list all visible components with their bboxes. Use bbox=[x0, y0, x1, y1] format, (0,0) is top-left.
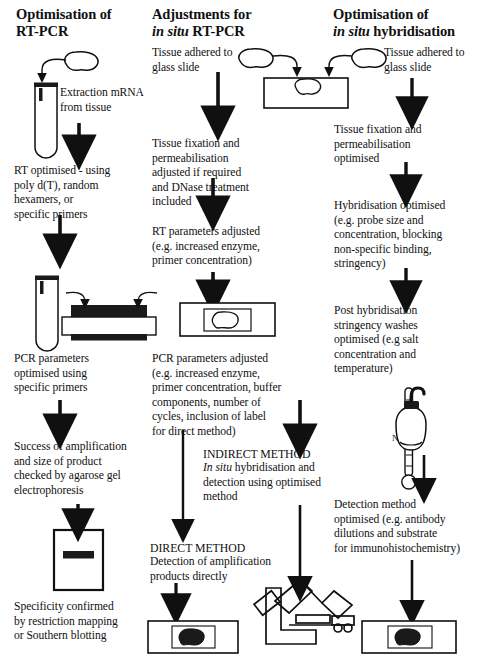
column-heading-in-situ-hybridisation: Optimisation of in situ hybridisation bbox=[333, 6, 455, 40]
arrow-blob-mid-to-slide bbox=[273, 55, 297, 72]
step-pcr-parameters-adjusted-mid: PCR parameters adjusted (e.g. increased … bbox=[152, 352, 317, 440]
heading-line-2: in situ hybridisation bbox=[333, 23, 455, 40]
thermocycler-label: Thermocycling bbox=[62, 320, 154, 335]
heading-italic-in-situ: in situ bbox=[152, 23, 189, 39]
step-post-hybridisation: Post hybridisation stringency washes opt… bbox=[334, 304, 484, 377]
test-tube-icon-left bbox=[34, 83, 58, 159]
heading-line-2: in situ RT-PCR bbox=[152, 23, 252, 40]
step-hybridisation-optimised: Hybridisation optimised (e.g. probe size… bbox=[334, 199, 484, 272]
step-tissue-fixation-mid: Tissue fixation and permeabilisation adj… bbox=[152, 137, 292, 210]
microscope-icon bbox=[254, 580, 354, 644]
direct-method-title: DIRECT METHOD bbox=[150, 541, 290, 556]
arrow-blob-right-to-slide bbox=[329, 55, 352, 72]
column-heading-in-situ-rt-pcr: Adjustments for in situ RT-PCR bbox=[152, 6, 252, 40]
direct-method-body: Detection of amplification products dire… bbox=[150, 555, 310, 584]
arrow-slide-to-thermocycler bbox=[138, 292, 157, 304]
step-tissue-adhered-mid: Tissue adhered to glass slide bbox=[152, 46, 262, 75]
tissue-blob-icon-left bbox=[65, 52, 98, 71]
test-tube-icon-thermocycler bbox=[35, 276, 59, 352]
agarose-gel-icon bbox=[54, 530, 103, 590]
heading-line-1: Optimisation of bbox=[333, 6, 455, 23]
heading-italic-in-situ: in situ bbox=[333, 23, 370, 39]
indirect-method-body: In situ hybridisation and detection usin… bbox=[203, 461, 353, 505]
indirect-method-title: INDIRECT METHOD bbox=[203, 447, 343, 462]
salt-bottle-label-charge: 2+ bbox=[403, 431, 410, 438]
step-tissue-adhered-right: Tissue adhered to glass slide bbox=[384, 46, 490, 75]
arrow-tube-to-thermocycler bbox=[66, 292, 85, 304]
step-success-amplification: Success of amplification and size of pro… bbox=[14, 440, 162, 498]
heading-rest: RT-PCR bbox=[189, 23, 245, 39]
step-detection-method: Detection method optimised (e.g. antibod… bbox=[334, 498, 490, 556]
step-rt-parameters-mid: RT parameters adjusted (e.g. increased e… bbox=[152, 225, 302, 269]
glass-slide-stained-icon-right bbox=[362, 621, 456, 653]
column-heading-rt-pcr: Optimisation of RT-PCR bbox=[16, 6, 112, 40]
salt-bottle-label: Na2+ bbox=[392, 428, 409, 446]
heading-rest: hybridisation bbox=[370, 23, 455, 39]
glass-slide-icon-middle bbox=[180, 303, 275, 336]
step-pcr-parameters: PCR parameters optimised using specific … bbox=[14, 352, 154, 396]
tissue-blob-icon-right bbox=[352, 49, 386, 68]
heading-line-2: RT-PCR bbox=[16, 23, 112, 40]
salt-bottle-label-text: Na bbox=[392, 433, 403, 443]
step-rt-optimised: RT optimised - using poly d(T), random h… bbox=[14, 164, 154, 222]
step-extraction-mrna: Extraction mRNA from tissue bbox=[60, 86, 165, 115]
step-specificity-confirmed: Specificity confirmed by restriction map… bbox=[14, 600, 164, 644]
glass-slide-icon-top bbox=[264, 78, 348, 108]
heading-line-1: Adjustments for bbox=[152, 6, 252, 23]
arrow-blob-to-tube bbox=[42, 59, 66, 78]
step-tissue-fixation-right: Tissue fixation and permeabilisation opt… bbox=[334, 123, 474, 167]
flowchart-canvas: Optimisation of RT-PCR Adjustments for i… bbox=[0, 0, 490, 659]
heading-line-1: Optimisation of bbox=[16, 6, 112, 23]
indirect-method-italic: In situ bbox=[203, 461, 232, 474]
